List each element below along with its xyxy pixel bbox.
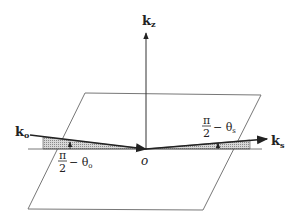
scattering-geometry-diagram: kz ko ks o π 2 − θo π 2 − θs — [0, 0, 299, 224]
ks-label: ks — [271, 133, 285, 150]
kz-label: kz — [142, 13, 156, 29]
scattered-angle-label: − θs — [213, 121, 236, 135]
origin-label: o — [141, 154, 148, 168]
k0-label: ko — [15, 124, 30, 140]
scattered-angle-denominator: 2 — [203, 127, 210, 140]
incident-angle-numerator: π — [59, 149, 66, 162]
scattered-angle-numerator: π — [203, 114, 210, 127]
incident-angle-label: − θo — [69, 156, 93, 170]
incident-angle-denominator: 2 — [59, 162, 66, 175]
